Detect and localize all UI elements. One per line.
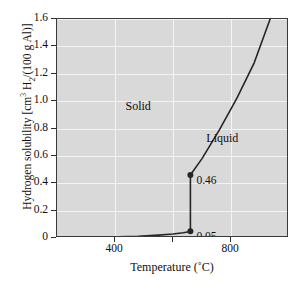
y-tick-label: 0.8 <box>0 122 48 134</box>
region-label-solid: Solid <box>126 99 151 114</box>
x-tick-label: 400 <box>94 243 134 255</box>
x-axis-title-prefix: Temperature ( <box>130 260 197 274</box>
y-tick-label: 0.6 <box>0 149 48 161</box>
y-tick-label: 1.4 <box>0 39 48 51</box>
x-tick-mark <box>172 237 173 242</box>
y-tick-label: 0.4 <box>0 176 48 188</box>
y-tick-label: 0 <box>0 231 48 243</box>
point-value-0-05: 0.05 <box>196 230 216 237</box>
x-tick-label: 800 <box>210 243 250 255</box>
data-curves <box>57 19 288 237</box>
y-axis-title: Hydrogen solubility [cm3 H2/(100 g Al)] <box>19 1 36 233</box>
y-tick-label: 1.6 <box>0 12 48 24</box>
y-tick-label: 1.0 <box>0 94 48 106</box>
y-axis-title-subscript: 2 <box>28 78 37 82</box>
curve-liquid-solubility <box>190 19 270 175</box>
y-tick-label: 1.2 <box>0 67 48 79</box>
data-point-marker <box>187 228 193 234</box>
y-axis-title-mid: H <box>21 82 33 93</box>
y-tick-mark <box>51 237 56 238</box>
region-label-liquid: Liquid <box>206 131 238 146</box>
x-axis-title: Temperature (˚C) <box>56 260 288 275</box>
plot-area: SolidLiquid 0.460.05 <box>56 18 288 237</box>
chart-figure: Hydrogen solubility [cm3 H2/(100 g Al)] … <box>0 0 299 286</box>
curve-solid-solubility <box>57 231 190 237</box>
data-point-marker <box>187 172 193 178</box>
point-value-0-46: 0.46 <box>196 174 216 186</box>
x-axis-title-suffix: C) <box>202 260 214 274</box>
y-tick-label: 0.2 <box>0 204 48 216</box>
